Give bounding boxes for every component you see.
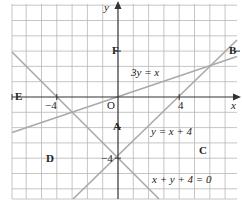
point-label-C: C	[199, 145, 207, 156]
line-label-y-eq-x-plus-4: y = x + 4	[151, 126, 192, 137]
line-label-x-plus-y-plus-4: x + y + 4 = 0	[152, 174, 212, 185]
point-label-B: B	[229, 45, 236, 56]
x-axis-label: x	[231, 100, 236, 111]
origin-label: O	[107, 100, 115, 111]
point-label-D: D	[46, 153, 54, 164]
line-3y-eq-x	[12, 57, 237, 133]
x-tick-label-minus4: −4	[45, 100, 57, 111]
point-label-A: A	[113, 121, 121, 132]
x-tick-label-4: 4	[178, 100, 184, 111]
point-label-F: F	[112, 45, 119, 56]
y-axis-label: y	[104, 2, 109, 13]
y-tick-label-minus4: −4	[101, 153, 113, 164]
point-label-E: E	[15, 91, 22, 102]
line-label-3y-eq-x: 3y = x	[131, 67, 159, 78]
